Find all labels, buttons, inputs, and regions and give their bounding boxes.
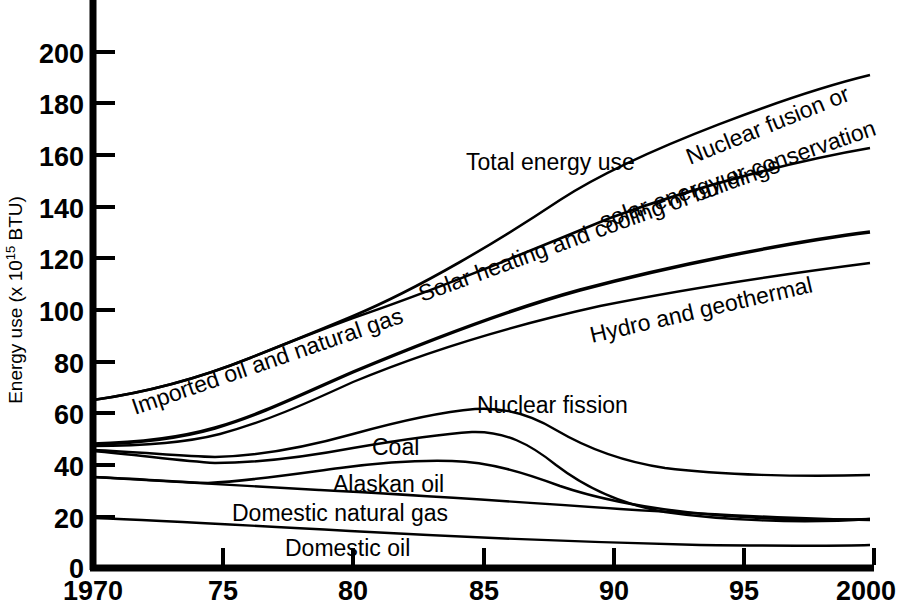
curve-alaskan-oil bbox=[93, 461, 870, 520]
y-tick-label-120: 120 bbox=[39, 245, 84, 275]
svg-text:Energy use (x 1015 BTU): Energy use (x 1015 BTU) bbox=[3, 196, 26, 404]
y-tick-label-80: 80 bbox=[54, 349, 84, 379]
y-axis-title-exponent: 15 bbox=[3, 246, 18, 260]
chart-canvas: 200 180 160 140 120 100 80 60 40 20 0 19… bbox=[0, 0, 903, 611]
y-tick-label-60: 60 bbox=[54, 400, 84, 430]
y-tick-label-160: 160 bbox=[39, 142, 84, 172]
curve-domestic-natural-gas bbox=[93, 477, 870, 520]
y-tick-label-180: 180 bbox=[39, 90, 84, 120]
y-tick-labels: 200 180 160 140 120 100 80 60 40 20 0 bbox=[39, 39, 84, 584]
x-tick-labels: 1970 75 80 85 90 95 2000 bbox=[63, 576, 896, 606]
curve-coal bbox=[93, 432, 870, 521]
y-tick-label-200: 200 bbox=[39, 39, 84, 69]
y-tick-label-140: 140 bbox=[39, 194, 84, 224]
y-axis-title: Energy use (x 1015 BTU) bbox=[3, 196, 26, 404]
y-axis-title-tail: BTU) bbox=[5, 196, 26, 246]
x-tick-label-2000: 2000 bbox=[836, 576, 896, 606]
x-tick-label-95: 95 bbox=[729, 576, 759, 606]
curve-label-nuclear-fission: Nuclear fission bbox=[477, 392, 628, 418]
curve-label-imported-oil-natural-gas: Imported oil and natural gas bbox=[128, 302, 406, 419]
curve-domestic-oil bbox=[93, 518, 870, 546]
x-tick-label-85: 85 bbox=[469, 576, 499, 606]
curve-label-domestic-oil: Domestic oil bbox=[285, 535, 410, 561]
curve-label-domestic-natural-gas: Domestic natural gas bbox=[232, 500, 448, 526]
x-tick-label-90: 90 bbox=[599, 576, 629, 606]
y-tick-marks bbox=[96, 52, 115, 517]
curve-label-hydro-geothermal: Hydro and geothermal bbox=[587, 271, 815, 348]
y-tick-label-40: 40 bbox=[54, 452, 84, 482]
y-axis-title-main: Energy use (x 10 bbox=[5, 260, 26, 404]
energy-use-line-chart: 200 180 160 140 120 100 80 60 40 20 0 19… bbox=[0, 0, 903, 611]
y-tick-label-20: 20 bbox=[54, 504, 84, 534]
curve-label-alaskan-oil: Alaskan oil bbox=[333, 471, 444, 497]
curve-label-coal: Coal bbox=[372, 434, 419, 460]
x-tick-marks bbox=[93, 548, 874, 565]
curve-labels-group: Total energy use Nuclear fusion or solar… bbox=[128, 80, 879, 561]
curve-label-total-energy-use: Total energy use bbox=[466, 149, 635, 175]
curve-nuclear-fission bbox=[93, 409, 870, 476]
y-tick-label-100: 100 bbox=[39, 297, 84, 327]
x-tick-label-75: 75 bbox=[208, 576, 238, 606]
x-tick-label-80: 80 bbox=[338, 576, 368, 606]
x-tick-label-1970: 1970 bbox=[63, 576, 123, 606]
